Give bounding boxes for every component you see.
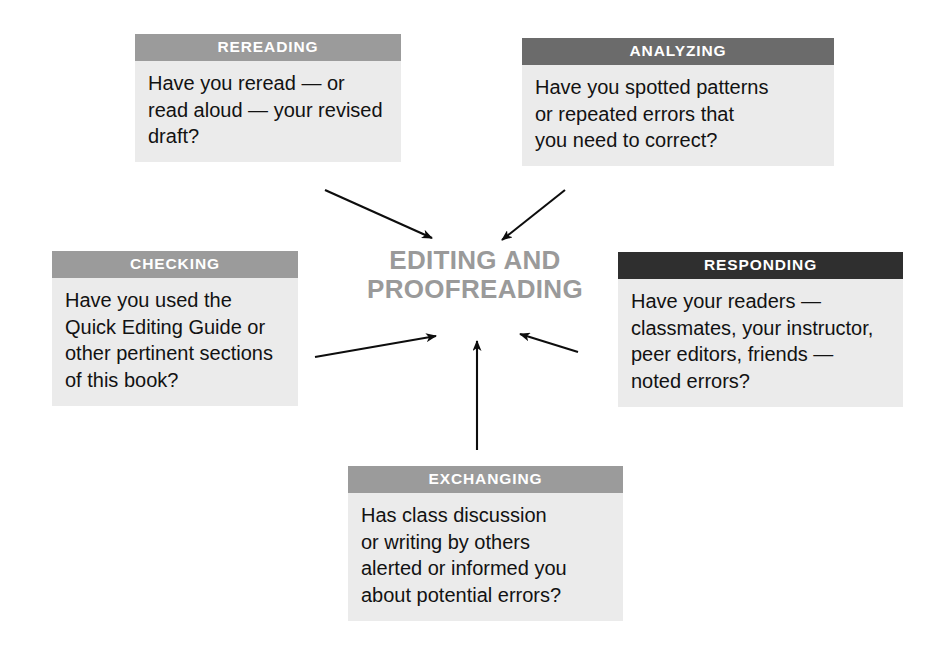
node-analyzing-line-1: Have you spotted patterns bbox=[535, 74, 822, 101]
node-rereading: REREADING Have you reread — or read alou… bbox=[135, 34, 401, 162]
node-checking: CHECKING Have you used the Quick Editing… bbox=[52, 251, 298, 406]
node-checking-line-4: of this book? bbox=[65, 367, 286, 394]
editing-and-proofreading-diagram: EDITING AND PROOFREADING REREADING Have … bbox=[0, 0, 941, 651]
node-analyzing-body: Have you spotted patterns or repeated er… bbox=[522, 65, 834, 166]
arrow-rereading-to-center bbox=[325, 190, 432, 238]
arrow-analyzing-to-center bbox=[502, 190, 565, 240]
node-analyzing: ANALYZING Have you spotted patterns or r… bbox=[522, 38, 834, 166]
node-analyzing-header: ANALYZING bbox=[522, 38, 834, 65]
node-analyzing-line-3: you need to correct? bbox=[535, 127, 822, 154]
center-title: EDITING AND PROOFREADING bbox=[330, 246, 620, 304]
node-rereading-body: Have you reread — or read aloud — your r… bbox=[135, 61, 401, 162]
arrow-responding-to-center bbox=[520, 334, 578, 352]
center-title-line-2: PROOFREADING bbox=[330, 275, 620, 304]
node-rereading-header: REREADING bbox=[135, 34, 401, 61]
node-responding-line-2: classmates, your instructor, bbox=[631, 315, 891, 342]
node-responding: RESPONDING Have your readers — classmate… bbox=[618, 252, 903, 407]
node-exchanging-line-3: alerted or informed you bbox=[361, 555, 611, 582]
node-exchanging-header: EXCHANGING bbox=[348, 466, 623, 493]
arrow-checking-to-center bbox=[315, 336, 436, 357]
node-rereading-line-1: Have you reread — or bbox=[148, 70, 389, 97]
node-responding-line-1: Have your readers — bbox=[631, 288, 891, 315]
node-checking-line-1: Have you used the bbox=[65, 287, 286, 314]
node-rereading-line-2: read aloud — your revised bbox=[148, 97, 389, 124]
node-analyzing-line-2: or repeated errors that bbox=[535, 101, 822, 128]
node-rereading-line-3: draft? bbox=[148, 123, 389, 150]
node-responding-header: RESPONDING bbox=[618, 252, 903, 279]
node-checking-body: Have you used the Quick Editing Guide or… bbox=[52, 278, 298, 405]
node-responding-body: Have your readers — classmates, your ins… bbox=[618, 279, 903, 406]
node-checking-header: CHECKING bbox=[52, 251, 298, 278]
node-checking-line-3: other pertinent sections bbox=[65, 340, 286, 367]
node-exchanging-line-1: Has class discussion bbox=[361, 502, 611, 529]
node-responding-line-4: noted errors? bbox=[631, 368, 891, 395]
node-responding-line-3: peer editors, friends — bbox=[631, 341, 891, 368]
node-exchanging-line-4: about potential errors? bbox=[361, 582, 611, 609]
node-exchanging: EXCHANGING Has class discussion or writi… bbox=[348, 466, 623, 621]
node-checking-line-2: Quick Editing Guide or bbox=[65, 314, 286, 341]
node-exchanging-body: Has class discussion or writing by other… bbox=[348, 493, 623, 620]
node-exchanging-line-2: or writing by others bbox=[361, 529, 611, 556]
center-title-line-1: EDITING AND bbox=[330, 246, 620, 275]
